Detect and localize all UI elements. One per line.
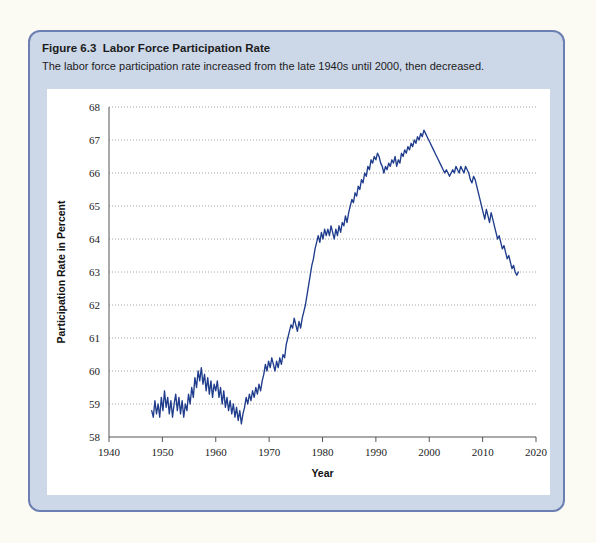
x-tick-label: 2000 — [418, 446, 441, 458]
y-tick-label: 67 — [89, 134, 101, 146]
y-axis-ticks-group: 5859606162636465666768 — [89, 101, 101, 443]
figure-subtitle: The labor force participation rate incre… — [42, 58, 551, 74]
page-background: Figure 6.3 Labor Force Participation Rat… — [0, 0, 596, 543]
data-series-line — [152, 130, 519, 424]
x-tick-label: 1980 — [312, 446, 335, 458]
figure-caption: Figure 6.3 Labor Force Participation Rat… — [42, 40, 551, 74]
figure-title-line: Figure 6.3 Labor Force Participation Rat… — [42, 40, 551, 56]
y-tick-label: 62 — [89, 299, 100, 311]
y-tick-label: 68 — [89, 101, 101, 113]
x-tick-label: 2010 — [472, 446, 495, 458]
figure-number: Figure 6.3 — [42, 42, 96, 54]
participation-rate-line-chart: 5859606162636465666768 19401950196019701… — [47, 89, 550, 495]
y-tick-label: 65 — [89, 200, 101, 212]
figure-title: Labor Force Participation Rate — [103, 42, 270, 54]
y-axis-title: Participation Rate in Percent — [55, 200, 67, 343]
y-tick-label: 59 — [89, 398, 101, 410]
y-tick-label: 64 — [89, 233, 101, 245]
x-tick-label: 2020 — [525, 446, 548, 458]
x-tick-label: 1990 — [365, 446, 388, 458]
y-tick-label: 61 — [89, 332, 100, 344]
figure-card: Figure 6.3 Labor Force Participation Rat… — [28, 30, 565, 512]
chart-plot-area: 5859606162636465666768 19401950196019701… — [47, 89, 550, 495]
y-tick-label: 58 — [89, 431, 101, 443]
x-tick-label: 1940 — [98, 446, 121, 458]
chart-panel: 5859606162636465666768 19401950196019701… — [47, 89, 550, 495]
y-tick-label: 60 — [89, 365, 101, 377]
x-tick-label: 1950 — [151, 446, 174, 458]
x-axis-title: Year — [311, 467, 333, 479]
y-tick-label: 66 — [89, 167, 101, 179]
x-tick-label: 1960 — [205, 446, 228, 458]
gridlines-group — [109, 107, 536, 404]
x-axis-ticks-group: 194019501960197019801990200020102020 — [98, 437, 548, 458]
y-tick-label: 63 — [89, 266, 101, 278]
x-tick-label: 1970 — [258, 446, 281, 458]
